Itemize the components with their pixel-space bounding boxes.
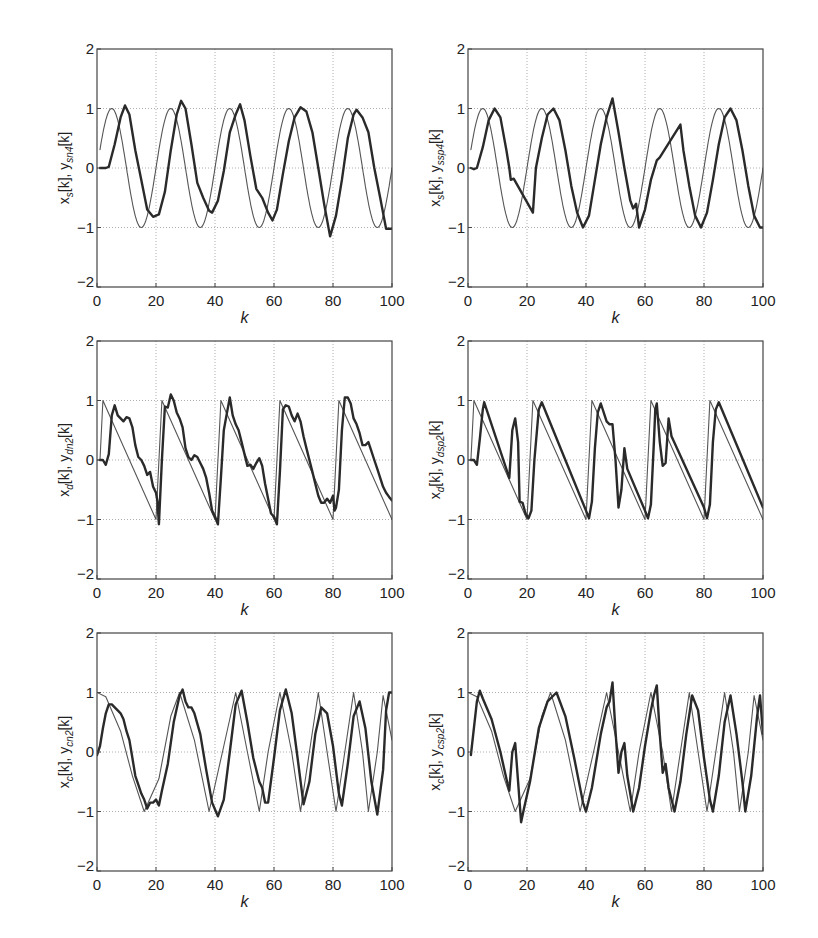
x-tick-label: 60 bbox=[637, 876, 654, 893]
x-axis-label: k bbox=[612, 309, 621, 326]
x-axis-label: k bbox=[241, 601, 250, 618]
y-tick-label: 0 bbox=[86, 159, 94, 176]
series-group bbox=[100, 101, 392, 237]
x-tick-label: 80 bbox=[696, 876, 713, 893]
y-tick-label: 0 bbox=[457, 159, 465, 176]
series-group bbox=[97, 395, 392, 525]
x-axis-label: k bbox=[241, 309, 250, 326]
x-tick-label: 80 bbox=[696, 292, 713, 309]
y-axis-label: xs[k], yssp4[k] bbox=[427, 129, 446, 206]
x-tick-label: 0 bbox=[464, 876, 472, 893]
y-tick-label: 2 bbox=[457, 40, 465, 57]
x-axis-label: k bbox=[612, 893, 621, 910]
y-axis-label: xd[k], ydsp2[k] bbox=[427, 421, 446, 500]
y-tick-label: −1 bbox=[77, 219, 94, 236]
y-axis-label: xs[k], ysn4[k] bbox=[56, 132, 75, 204]
output-signal-line bbox=[471, 682, 763, 822]
y-tick-label: −2 bbox=[448, 565, 465, 582]
x-tick-label: 100 bbox=[379, 584, 404, 601]
y-tick-label: −1 bbox=[448, 511, 465, 528]
x-tick-label: 0 bbox=[464, 584, 472, 601]
x-tick-label: 0 bbox=[93, 292, 101, 309]
output-signal-line bbox=[100, 101, 392, 237]
series-group bbox=[468, 401, 763, 520]
x-tick-label: 60 bbox=[266, 584, 283, 601]
output-signal-line bbox=[100, 395, 392, 525]
x-tick-label: 0 bbox=[93, 584, 101, 601]
x-tick-label: 60 bbox=[637, 292, 654, 309]
y-tick-label: −2 bbox=[448, 857, 465, 874]
x-tick-label: 100 bbox=[750, 876, 775, 893]
x-tick-label: 0 bbox=[464, 292, 472, 309]
y-tick-label: 0 bbox=[457, 451, 465, 468]
output-signal-line bbox=[471, 402, 763, 518]
y-tick-label: 2 bbox=[86, 40, 94, 57]
y-tick-label: −1 bbox=[448, 219, 465, 236]
x-tick-label: 100 bbox=[379, 292, 404, 309]
x-tick-label: 40 bbox=[578, 584, 595, 601]
y-tick-label: −1 bbox=[77, 803, 94, 820]
x-tick-label: 40 bbox=[207, 292, 224, 309]
y-tick-label: −1 bbox=[448, 803, 465, 820]
series-group bbox=[471, 98, 763, 227]
series-group bbox=[97, 690, 392, 817]
x-tick-label: 60 bbox=[266, 876, 283, 893]
grid-lines bbox=[97, 633, 392, 871]
y-tick-label: −2 bbox=[77, 565, 94, 582]
y-tick-label: 1 bbox=[457, 100, 465, 117]
y-tick-label: 0 bbox=[457, 743, 465, 760]
x-tick-label: 100 bbox=[379, 876, 404, 893]
x-tick-label: 20 bbox=[148, 876, 165, 893]
subplot-dsp2: 020406080100−2−1012kxd[k], ydsp2[k] bbox=[427, 332, 776, 618]
y-tick-label: 1 bbox=[457, 684, 465, 701]
y-tick-label: 1 bbox=[86, 684, 94, 701]
x-tick-label: 20 bbox=[148, 584, 165, 601]
y-tick-label: 1 bbox=[86, 392, 94, 409]
x-tick-label: 80 bbox=[325, 292, 342, 309]
y-tick-label: −2 bbox=[448, 273, 465, 290]
output-signal-line bbox=[97, 690, 392, 817]
y-tick-label: 2 bbox=[457, 624, 465, 641]
x-tick-label: 20 bbox=[519, 876, 536, 893]
y-tick-label: 2 bbox=[86, 332, 94, 349]
y-tick-label: 0 bbox=[86, 743, 94, 760]
x-tick-label: 100 bbox=[750, 584, 775, 601]
x-tick-label: 20 bbox=[148, 292, 165, 309]
y-tick-label: −2 bbox=[77, 273, 94, 290]
x-tick-label: 40 bbox=[207, 584, 224, 601]
x-tick-label: 20 bbox=[519, 584, 536, 601]
y-tick-label: 1 bbox=[457, 392, 465, 409]
x-tick-label: 0 bbox=[93, 876, 101, 893]
output-signal-line bbox=[471, 98, 763, 227]
y-tick-label: −1 bbox=[77, 511, 94, 528]
y-axis-label: xc[k], ycsp2[k] bbox=[427, 713, 446, 790]
x-axis-label: k bbox=[612, 601, 621, 618]
x-tick-label: 80 bbox=[325, 584, 342, 601]
x-tick-label: 20 bbox=[519, 292, 536, 309]
x-tick-label: 80 bbox=[696, 584, 713, 601]
subplot-cn2: 020406080100−2−1012kxc[k], ycn2[k] bbox=[56, 624, 405, 910]
y-tick-label: 0 bbox=[86, 451, 94, 468]
subplot-csp2: 020406080100−2−1012kxc[k], ycsp2[k] bbox=[427, 624, 776, 910]
x-tick-label: 40 bbox=[207, 876, 224, 893]
y-tick-label: 2 bbox=[457, 332, 465, 349]
y-tick-label: −2 bbox=[77, 857, 94, 874]
x-tick-label: 40 bbox=[578, 292, 595, 309]
y-tick-label: 1 bbox=[86, 100, 94, 117]
figure-grid: 020406080100−2−1012kxs[k], ysn4[k] 02040… bbox=[0, 0, 818, 938]
subplot-dn2: 020406080100−2−1012kxd[k], ydn2[k] bbox=[56, 332, 405, 618]
x-tick-label: 40 bbox=[578, 876, 595, 893]
x-tick-label: 100 bbox=[750, 292, 775, 309]
subplot-ssp4: 020406080100−2−1012kxs[k], yssp4[k] bbox=[427, 40, 776, 326]
y-tick-label: 2 bbox=[86, 624, 94, 641]
y-axis-label: xd[k], ydn2[k] bbox=[56, 423, 75, 497]
x-tick-label: 80 bbox=[325, 876, 342, 893]
x-axis-label: k bbox=[241, 893, 250, 910]
x-tick-label: 60 bbox=[637, 584, 654, 601]
x-tick-label: 60 bbox=[266, 292, 283, 309]
y-axis-label: xc[k], ycn2[k] bbox=[56, 716, 75, 788]
subplot-sn4: 020406080100−2−1012kxs[k], ysn4[k] bbox=[56, 40, 405, 326]
